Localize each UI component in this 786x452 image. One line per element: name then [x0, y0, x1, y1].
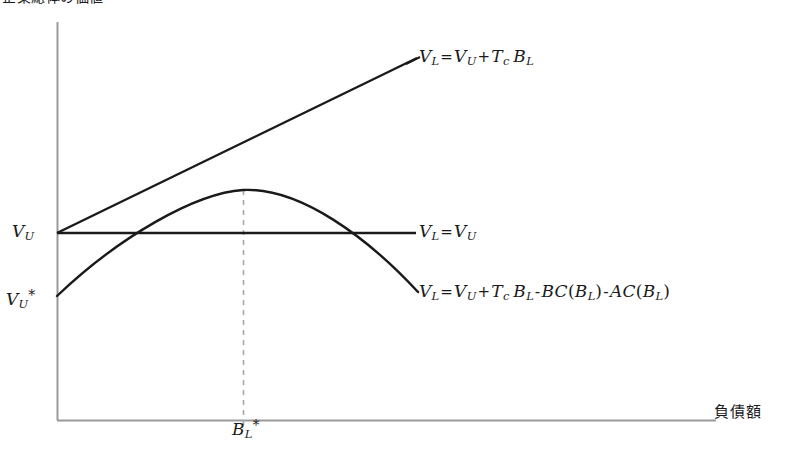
eq-bot-p1: L [432, 289, 440, 303]
eq-bot-p3: V [454, 281, 467, 301]
eq-bot-p6: T [491, 281, 503, 301]
equation-label-net-of-costs: VL=VU+TcBL-BC(BL)-AC(BL) [419, 282, 670, 302]
eq-top-p4: U [467, 54, 477, 68]
eq-top-p8: B [509, 46, 526, 66]
y-axis-label-vu-star: VU* [6, 290, 36, 310]
plot-area [0, 0, 786, 452]
eq-top-p1: L [432, 54, 440, 68]
eq-top-p0: V [419, 46, 432, 66]
y-axis-label-vu: VU [12, 222, 34, 242]
eq-top-p2: = [439, 48, 454, 66]
eq-bot-p18: ( [636, 281, 643, 301]
eq-top-p6: T [491, 46, 503, 66]
equation-label-tax-shield: VL=VU+TcBL [419, 47, 534, 67]
chart-figure: 企業総体の価値 VU VU* BL* 負債額 VL=VU+TcBL VL=VU … [0, 0, 786, 452]
leader-top-equation [406, 57, 420, 64]
eq-mid-p4: U [467, 229, 477, 243]
eq-bot-p4: U [467, 289, 477, 303]
eq-top-p5: + [476, 48, 491, 66]
eq-mid-p2: = [439, 223, 454, 241]
eq-top-p3: V [454, 46, 467, 66]
vu-star-subscript: U [19, 297, 29, 311]
eq-bot-p8: B [509, 281, 526, 301]
eq-top-p9: L [526, 54, 534, 68]
eq-bot-p12: ( [568, 281, 575, 301]
vu-star-asterisk: * [28, 287, 35, 303]
eq-bot-p19: B [643, 281, 656, 301]
eq-bot-p20: L [656, 289, 664, 303]
bl-star-asterisk: * [252, 417, 259, 433]
eq-bot-p0: V [419, 281, 432, 301]
x-axis-title: 負債額 [714, 404, 762, 420]
curve-vl-with-tax-shield [57, 58, 417, 233]
eq-bot-p16: - [602, 283, 610, 301]
eq-bot-p11: BC [542, 281, 568, 301]
eq-mid-p3: V [454, 221, 467, 241]
eq-mid-p1: L [432, 229, 440, 243]
bl-star-base: B [232, 419, 245, 439]
vu-subscript: U [25, 229, 35, 243]
eq-bot-p17: AC [610, 281, 636, 301]
eq-bot-p5: + [476, 283, 491, 301]
eq-bot-p14: L [588, 289, 596, 303]
eq-bot-p7: c [503, 289, 509, 303]
equation-label-unlevered: VL=VU [419, 222, 476, 242]
vu-star-base: V [6, 289, 19, 309]
eq-bot-p21: ) [663, 281, 670, 301]
x-axis-label-bl-star: BL* [232, 420, 260, 440]
eq-bot-p10: - [534, 283, 542, 301]
eq-mid-p0: V [419, 221, 432, 241]
eq-bot-p13: B [575, 281, 588, 301]
vu-base: V [12, 221, 25, 241]
eq-bot-p9: L [526, 289, 534, 303]
eq-top-p7: c [503, 54, 509, 68]
eq-bot-p2: = [439, 283, 454, 301]
